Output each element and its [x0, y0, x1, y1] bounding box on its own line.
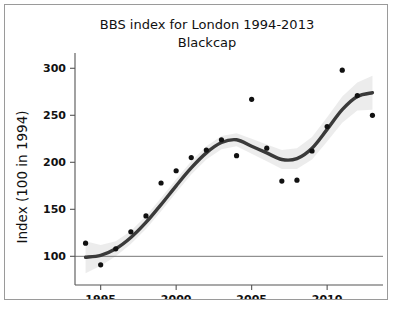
- x-tick-label: 2010: [312, 293, 343, 299]
- data-point: [98, 262, 103, 267]
- y-tick-label: 300: [43, 62, 66, 75]
- data-point: [294, 178, 299, 183]
- y-tick-label: 100: [43, 250, 66, 263]
- data-point: [143, 213, 148, 218]
- data-point: [128, 229, 133, 234]
- data-point: [219, 137, 224, 142]
- data-point: [340, 68, 345, 73]
- data-point: [113, 246, 118, 251]
- y-tick-label: 250: [43, 109, 66, 122]
- chart-panel: BBS index for London 1994-2013 Blackcap …: [4, 4, 388, 300]
- data-point: [309, 148, 314, 153]
- data-point: [158, 180, 163, 185]
- data-point: [174, 168, 179, 173]
- data-point: [234, 153, 239, 158]
- chart-canvas: BBS index for London 1994-2013 Blackcap …: [5, 5, 387, 299]
- data-point: [249, 97, 254, 102]
- data-point: [204, 147, 209, 152]
- data-point: [189, 155, 194, 160]
- data-point: [325, 124, 330, 129]
- data-point: [279, 179, 284, 184]
- screenshot-root: BBS index for London 1994-2013 Blackcap …: [0, 0, 394, 316]
- y-tick-label: 200: [43, 156, 66, 169]
- y-axis-ticks: 100150200250300: [43, 62, 75, 263]
- data-point: [370, 113, 375, 118]
- y-axis-label: Index (100 in 1994): [14, 110, 30, 243]
- chart-title: BBS index for London 1994-2013: [100, 17, 314, 32]
- x-tick-label: 2005: [236, 293, 267, 299]
- data-point: [83, 241, 88, 246]
- y-tick-label: 150: [43, 203, 66, 216]
- x-tick-label: 2000: [161, 293, 192, 299]
- x-tick-label: 1995: [85, 293, 116, 299]
- chart-subtitle: Blackcap: [178, 35, 237, 50]
- data-point: [355, 93, 360, 98]
- confidence-band: [86, 76, 373, 273]
- x-axis-ticks: 1995200020052010: [85, 285, 342, 299]
- data-point: [264, 146, 269, 151]
